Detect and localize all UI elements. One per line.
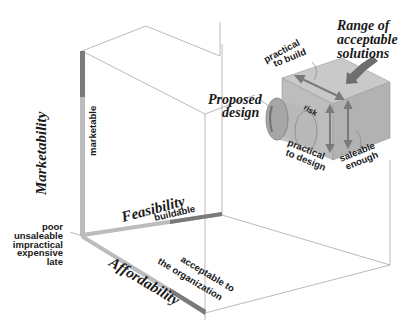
origin-label-late: late [47,256,63,267]
range-callout-line3: solutions [336,46,390,61]
origin-labels: poor unsaleable impractical expensive la… [13,221,63,267]
marketability-axis-title: Marketability [33,111,49,196]
solution-space-diagram: Marketability marketable Feasibility bui… [0,0,409,330]
marketable-label: marketable [87,106,98,156]
range-callout-line2: acceptable [337,32,398,47]
marketability-target-segment [80,51,85,97]
proposed-callout-line2: design [222,105,260,120]
range-callout-line1: Range of [336,18,391,33]
